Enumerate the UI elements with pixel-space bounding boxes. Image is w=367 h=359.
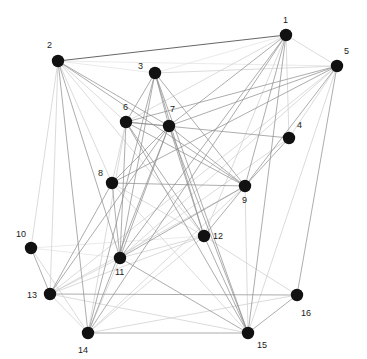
graph-edge: [126, 35, 286, 122]
graph-edge: [58, 61, 337, 66]
graph-edge: [204, 236, 297, 295]
graph-edge: [297, 66, 337, 295]
node-layer: [25, 29, 343, 339]
graph-edge: [58, 35, 286, 61]
graph-node-label: 5: [344, 47, 349, 56]
graph-node[interactable]: [242, 327, 254, 339]
graph-node-label: 6: [123, 103, 128, 112]
graph-node[interactable]: [52, 55, 64, 67]
graph-edge: [155, 73, 248, 333]
graph-node[interactable]: [120, 116, 132, 128]
graph-edge: [31, 248, 50, 294]
graph-edge: [50, 294, 88, 333]
graph-node-label: 8: [98, 169, 103, 178]
graph-node[interactable]: [149, 67, 161, 79]
graph-node-label: 4: [297, 121, 302, 130]
graph-node[interactable]: [163, 120, 175, 132]
graph-node[interactable]: [291, 289, 303, 301]
graph-edge: [88, 236, 204, 333]
graph-node-label: 15: [257, 341, 267, 350]
graph-node[interactable]: [198, 230, 210, 242]
graph-node-label: 12: [213, 232, 223, 241]
graph-edge: [50, 61, 58, 294]
graph-node-label: 16: [301, 309, 311, 318]
graph-edge: [120, 186, 245, 258]
graph-edge: [50, 258, 120, 294]
graph-edge: [120, 35, 286, 258]
graph-edge: [245, 186, 248, 333]
graph-node[interactable]: [114, 252, 126, 264]
graph-node-label: 1: [283, 16, 288, 25]
graph-edge: [155, 66, 337, 73]
graph-edge: [50, 294, 297, 295]
graph-node-label: 14: [78, 346, 88, 355]
graph-edge: [120, 258, 248, 333]
graph-node[interactable]: [239, 180, 251, 192]
graph-node[interactable]: [82, 327, 94, 339]
graph-edge: [88, 122, 126, 333]
graph-edge: [248, 295, 297, 333]
graph-edge: [169, 66, 337, 126]
graph-node-label: 7: [170, 105, 175, 114]
graph-node[interactable]: [280, 29, 292, 41]
graph-edge: [245, 66, 337, 186]
edge-layer: [31, 35, 337, 333]
graph-edge: [58, 61, 126, 122]
graph-node-label: 3: [138, 62, 143, 71]
graph-edge: [204, 236, 248, 333]
graph-node[interactable]: [106, 177, 118, 189]
network-graph-figure: 12345678910111213141516: [0, 0, 367, 359]
graph-node[interactable]: [44, 288, 56, 300]
graph-edge: [248, 35, 286, 333]
graph-node-label: 10: [16, 230, 26, 239]
graph-node[interactable]: [331, 60, 343, 72]
graph-edge: [126, 122, 204, 236]
graph-edge: [58, 61, 88, 333]
graph-edge: [286, 35, 289, 138]
graph-node-label: 11: [115, 268, 124, 277]
graph-node[interactable]: [283, 132, 295, 144]
graph-edge: [31, 61, 58, 248]
graph-edge: [204, 35, 286, 236]
graph-edge: [155, 35, 286, 73]
graph-edge: [112, 183, 120, 258]
graph-node-label: 13: [27, 291, 37, 300]
graph-node-label: 9: [242, 196, 247, 205]
graph-edge: [58, 61, 120, 258]
graph-node[interactable]: [25, 242, 37, 254]
graph-node-label: 2: [47, 41, 52, 50]
graph-edge: [126, 122, 248, 333]
graph-canvas: [0, 0, 367, 359]
graph-edge: [286, 35, 337, 66]
